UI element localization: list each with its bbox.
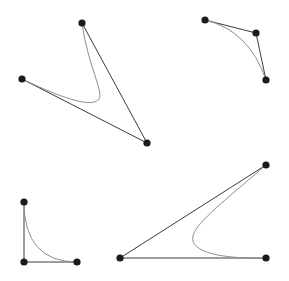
control-polygon-top-right (205, 20, 266, 80)
control-point-p1-bottom-left[interactable] (20, 258, 27, 265)
control-polygon-bottom-right (120, 165, 266, 258)
control-polygon-bottom-left (24, 202, 77, 262)
control-point-p2-bottom-left[interactable] (73, 258, 80, 265)
bezier-figure-svg (0, 0, 289, 281)
panel-top-left (18, 19, 150, 146)
control-point-p0-top-left[interactable] (78, 19, 85, 26)
control-point-p1-top-right[interactable] (252, 29, 259, 36)
control-polygon-top-left (22, 23, 147, 143)
control-point-p1-top-left[interactable] (143, 139, 150, 146)
control-point-p1-bottom-right[interactable] (116, 254, 123, 261)
figure-canvas (0, 0, 289, 281)
panel-top-right (201, 16, 269, 83)
control-point-p0-bottom-right[interactable] (262, 161, 269, 168)
control-point-p0-top-right[interactable] (201, 16, 208, 23)
bezier-curve-bottom-left (24, 202, 77, 262)
control-point-p2-top-left[interactable] (18, 75, 25, 82)
panel-bottom-right (116, 161, 269, 261)
control-point-p2-top-right[interactable] (262, 76, 269, 83)
control-point-p2-bottom-right[interactable] (262, 254, 269, 261)
bezier-curve-top-right (205, 20, 266, 80)
bezier-curve-bottom-right (193, 165, 266, 258)
control-point-p0-bottom-left[interactable] (20, 198, 27, 205)
panel-bottom-left (20, 198, 80, 265)
